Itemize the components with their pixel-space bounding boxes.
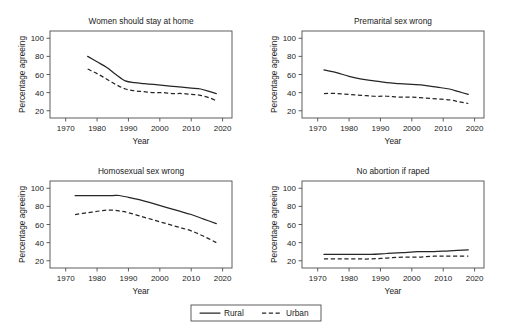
- y-axis-label: Percentage agreeing: [269, 186, 279, 263]
- x-axis-label: Year: [133, 136, 150, 146]
- y-tick-label: 80: [287, 52, 296, 61]
- y-tick-label: 20: [35, 257, 44, 266]
- y-tick-label: 40: [35, 239, 44, 248]
- y-tick-label: 20: [287, 257, 296, 266]
- y-tick-label: 100: [31, 34, 45, 43]
- x-tick-label: 1980: [340, 274, 358, 283]
- x-tick-label: 2020: [214, 274, 232, 283]
- x-tick-label: 2000: [403, 124, 421, 133]
- y-tick-label: 40: [287, 239, 296, 248]
- multi-panel-line-chart-figure: Women should stay at home197019801990200…: [0, 0, 512, 333]
- x-tick-label: 2020: [466, 274, 484, 283]
- legend-label-urban: Urban: [286, 308, 309, 318]
- x-tick-label: 2010: [434, 124, 452, 133]
- y-tick-label: 80: [35, 52, 44, 61]
- x-axis-label: Year: [385, 136, 402, 146]
- y-tick-label: 80: [35, 202, 44, 211]
- panel-title: No abortion if raped: [357, 166, 430, 176]
- x-tick-label: 1990: [120, 274, 138, 283]
- panel-title: Homosexual sex wrong: [98, 166, 185, 176]
- legend-label-rural: Rural: [224, 308, 244, 318]
- y-tick-label: 60: [287, 71, 296, 80]
- x-axis-label: Year: [133, 286, 150, 296]
- y-tick-label: 40: [287, 89, 296, 98]
- legend: RuralUrban: [191, 305, 321, 321]
- x-tick-label: 1980: [88, 124, 106, 133]
- x-tick-label: 2020: [466, 124, 484, 133]
- x-tick-label: 1970: [309, 274, 327, 283]
- y-tick-label: 60: [35, 71, 44, 80]
- x-axis-label: Year: [385, 286, 402, 296]
- y-tick-label: 100: [283, 34, 297, 43]
- x-tick-label: 1980: [88, 274, 106, 283]
- x-tick-label: 1970: [57, 274, 75, 283]
- y-tick-label: 20: [287, 107, 296, 116]
- x-tick-label: 1980: [340, 124, 358, 133]
- x-tick-label: 2010: [182, 124, 200, 133]
- y-axis-label: Percentage agreeing: [17, 186, 27, 263]
- x-tick-label: 2020: [214, 124, 232, 133]
- y-tick-label: 60: [287, 221, 296, 230]
- x-tick-label: 1990: [372, 124, 390, 133]
- x-tick-label: 2010: [434, 274, 452, 283]
- panel-title: Premarital sex wrong: [354, 16, 432, 26]
- y-axis-label: Percentage agreeing: [17, 36, 27, 113]
- x-tick-label: 2000: [151, 124, 169, 133]
- x-tick-label: 2000: [151, 274, 169, 283]
- y-tick-label: 100: [31, 184, 45, 193]
- figure-background: [0, 0, 512, 333]
- x-tick-label: 1990: [372, 274, 390, 283]
- y-tick-label: 20: [35, 107, 44, 116]
- x-tick-label: 1990: [120, 124, 138, 133]
- x-tick-label: 2000: [403, 274, 421, 283]
- y-tick-label: 100: [283, 184, 297, 193]
- x-tick-label: 1970: [309, 124, 327, 133]
- y-tick-label: 80: [287, 202, 296, 211]
- y-axis-label: Percentage agreeing: [269, 36, 279, 113]
- x-tick-label: 2010: [182, 274, 200, 283]
- x-tick-label: 1970: [57, 124, 75, 133]
- y-tick-label: 60: [35, 221, 44, 230]
- panel-title: Women should stay at home: [89, 16, 194, 26]
- y-tick-label: 40: [35, 89, 44, 98]
